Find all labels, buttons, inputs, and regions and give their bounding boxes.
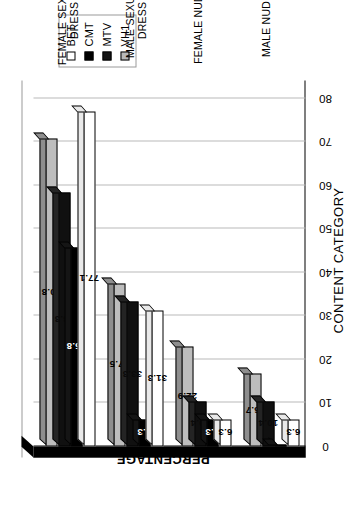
bar-value-label: 77.1 bbox=[77, 274, 101, 284]
bar-cmt-0 bbox=[274, 446, 286, 447]
bar-value-label: 6.3 bbox=[281, 428, 305, 438]
legend-label-mtv: MTV bbox=[100, 22, 112, 46]
y-tick-0: 0 bbox=[311, 440, 339, 452]
y-tick-20: 20 bbox=[311, 353, 339, 365]
gridline-50 bbox=[33, 228, 305, 229]
bar-value-label: 10.4 bbox=[255, 419, 279, 429]
legend-swatch-cmt bbox=[84, 51, 93, 60]
gridline-70 bbox=[33, 141, 305, 142]
bar-value-label: 6.3 bbox=[213, 428, 237, 438]
y-tick-70: 70 bbox=[311, 136, 339, 148]
bar-bet-2: 31.3 bbox=[151, 310, 163, 446]
plot-area: 16.710.46.322.910.46.36.337.533.36.331.3… bbox=[33, 80, 305, 457]
plot-back-wall bbox=[21, 80, 33, 457]
gridline-80 bbox=[33, 97, 305, 98]
x-category-2: MALE SEXUAL DRESS bbox=[123, 0, 147, 70]
x-axis-title: CONTENT CATEGORY bbox=[330, 187, 345, 333]
bar-value-label: 33.3 bbox=[119, 369, 143, 379]
x-category-3: FEMALE SEXUAL DRESS bbox=[55, 0, 79, 70]
bar-bet-0: 6.3 bbox=[287, 419, 299, 446]
y-tick-80: 80 bbox=[311, 92, 339, 104]
x-category-0: MALE NUDITY bbox=[259, 0, 271, 70]
bar-bet-1: 6.3 bbox=[219, 419, 231, 446]
bar-rect bbox=[274, 444, 286, 446]
legend-label-cmt: CMT bbox=[82, 22, 94, 46]
gridline-60 bbox=[33, 184, 305, 185]
legend-item-cmt: CMT bbox=[82, 22, 94, 60]
legend-swatch-mtv bbox=[102, 51, 111, 60]
y-tick-10: 10 bbox=[311, 397, 339, 409]
x-category-1: FEMALE NUDITY bbox=[191, 0, 203, 70]
bar-bet-3: 77.1 bbox=[83, 111, 95, 446]
y-axis-title: PERCENTAGE bbox=[103, 452, 223, 467]
bar-value-label: 31.3 bbox=[145, 373, 169, 383]
legend-item-mtv: MTV bbox=[100, 22, 112, 60]
chart-figure: BET CMT MTV VH1 16.710.46.322.910.46.36.… bbox=[0, 0, 351, 513]
